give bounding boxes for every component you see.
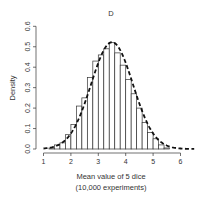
- histogram-bar: [164, 148, 169, 149]
- histogram-bar: [71, 124, 76, 149]
- x-tick-label: 2: [69, 158, 73, 165]
- x-tick-label: 5: [151, 158, 155, 165]
- x-tick-label: 1: [42, 158, 46, 165]
- bars-group: [49, 43, 170, 149]
- histogram-bar: [137, 108, 142, 149]
- histogram-bar: [93, 61, 98, 149]
- histogram-bar: [142, 122, 147, 149]
- histogram-bar: [98, 55, 103, 149]
- y-tick-label: 0.3: [24, 83, 31, 93]
- y-tick-label: 0.6: [24, 21, 31, 31]
- x-axis: 123456: [42, 153, 183, 165]
- x-tick-label: 4: [124, 158, 128, 165]
- x-tick-label: 6: [179, 158, 183, 165]
- y-tick-label: 0.5: [24, 42, 31, 52]
- histogram-bar: [82, 98, 87, 149]
- histogram-bar: [104, 49, 109, 149]
- chart-title: D: [108, 9, 114, 18]
- y-tick-label: 0.4: [24, 62, 31, 72]
- histogram-bar: [131, 94, 136, 149]
- histogram-bar: [109, 43, 114, 149]
- histogram-bar: [60, 143, 65, 149]
- y-tick-label: 0.1: [24, 124, 31, 134]
- x-axis-label: Mean value of 5 dice: [76, 172, 145, 181]
- histogram-bar: [148, 133, 153, 149]
- y-axis: 0.00.10.20.30.40.50.6: [24, 21, 36, 154]
- y-axis-label: Density: [8, 75, 17, 100]
- y-tick-label: 0.0: [24, 144, 31, 154]
- histogram-bar: [120, 65, 125, 149]
- histogram-bar: [115, 53, 120, 149]
- histogram-bar: [126, 79, 131, 149]
- histogram-bar: [159, 145, 164, 149]
- histogram-chart: D 0.00.10.20.30.40.50.6 123456 Density M…: [0, 0, 211, 201]
- x-axis-sublabel: (10,000 experiments): [76, 183, 147, 192]
- x-tick-label: 3: [96, 158, 100, 165]
- y-tick-label: 0.2: [24, 103, 31, 113]
